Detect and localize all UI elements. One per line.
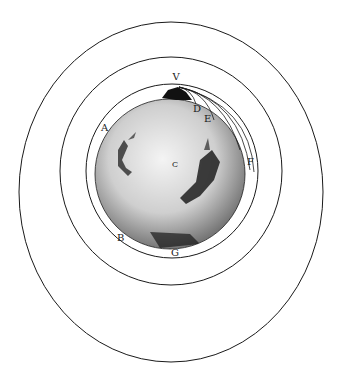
orbit-diagram: V D E F A B G C bbox=[0, 0, 338, 382]
label-b: B bbox=[117, 232, 124, 243]
label-f: F bbox=[247, 156, 254, 167]
label-e: E bbox=[204, 113, 211, 124]
label-c: C bbox=[172, 160, 178, 169]
earth bbox=[95, 99, 245, 249]
label-g: G bbox=[171, 247, 179, 258]
label-d: D bbox=[193, 103, 201, 114]
label-a: A bbox=[100, 122, 109, 133]
label-v: V bbox=[171, 71, 180, 82]
